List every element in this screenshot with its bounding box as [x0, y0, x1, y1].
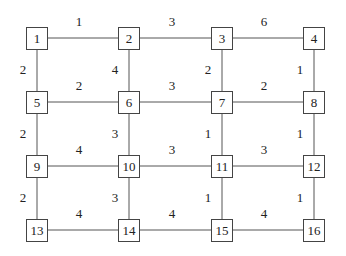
node-8: 8	[303, 91, 325, 114]
node-14: 14	[118, 219, 140, 242]
edge-weight-label: 3	[169, 78, 176, 94]
node-13: 13	[26, 219, 48, 242]
node-7: 7	[211, 91, 233, 114]
edge-weight-label: 1	[76, 14, 83, 30]
edge-weight-label: 4	[112, 62, 119, 78]
edge-weight-label: 2	[76, 78, 83, 94]
node-4: 4	[303, 27, 325, 50]
edge-weight-label: 1	[297, 62, 304, 78]
node-11: 11	[211, 155, 233, 178]
edge-weight-label: 4	[261, 206, 268, 222]
node-3: 3	[211, 27, 233, 50]
edge-weight-label: 2	[20, 62, 27, 78]
edge-weight-label: 2	[20, 190, 27, 206]
node-16: 16	[303, 219, 325, 242]
edge-weight-label: 6	[261, 14, 268, 30]
edge-weight-label: 4	[169, 206, 176, 222]
node-12: 12	[303, 155, 325, 178]
edge-weight-label: 3	[112, 190, 119, 206]
edge-weight-label: 1	[205, 126, 212, 142]
edge-weight-label: 4	[76, 206, 83, 222]
node-15: 15	[211, 219, 233, 242]
edge-weight-label: 1	[297, 126, 304, 142]
node-1: 1	[26, 27, 48, 50]
edge-weight-label: 3	[261, 142, 268, 158]
edge-weight-label: 1	[297, 190, 304, 206]
node-5: 5	[26, 91, 48, 114]
edge-weight-label: 2	[205, 62, 212, 78]
node-10: 10	[118, 155, 140, 178]
edge-weight-label: 2	[261, 78, 268, 94]
edge-weight-label: 1	[205, 190, 212, 206]
node-6: 6	[118, 91, 140, 114]
edge-weight-label: 2	[20, 126, 27, 142]
edge-weight-label: 3	[169, 14, 176, 30]
edge-weight-label: 3	[169, 142, 176, 158]
node-9: 9	[26, 155, 48, 178]
node-2: 2	[118, 27, 140, 50]
edge-weight-label: 4	[76, 142, 83, 158]
edge-weight-label: 3	[112, 126, 119, 142]
